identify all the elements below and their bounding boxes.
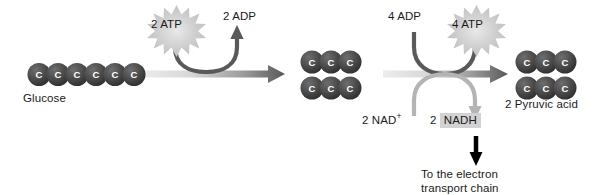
carbon-atom-label: C bbox=[74, 69, 81, 80]
carbon-atom-label: C bbox=[347, 57, 354, 68]
glucose-label: Glucose bbox=[23, 92, 66, 105]
nad-charge-superscript: + bbox=[396, 111, 401, 121]
atp-burst-icon-left bbox=[147, 5, 206, 57]
carbon-atom-label: C bbox=[55, 69, 62, 80]
main-arrow-segment-1 bbox=[138, 65, 285, 83]
glucose-carbon-chain: C C C C C C bbox=[28, 63, 146, 86]
carbon-atom-label: C bbox=[309, 83, 316, 94]
nad-input-label: 2 NAD+ bbox=[362, 114, 401, 127]
glycolysis-diagram: C C C C C C C C C C C C bbox=[0, 0, 601, 195]
atp-output-label: 4 ATP bbox=[452, 18, 483, 31]
carbon-atom-label: C bbox=[309, 57, 316, 68]
carbon-atom-label: C bbox=[328, 83, 335, 94]
carbon-atom-label: C bbox=[328, 57, 335, 68]
electron-transport-caption-line1: To the electron bbox=[421, 167, 499, 181]
carbon-atom-label: C bbox=[562, 83, 569, 94]
carbon-atom-label: C bbox=[543, 57, 550, 68]
atp-input-label: 2 ATP bbox=[151, 18, 182, 31]
electron-transport-caption-line2: transport chain bbox=[421, 181, 499, 195]
carbon-atom-label: C bbox=[524, 57, 531, 68]
carbon-atom-label: C bbox=[543, 83, 550, 94]
adp-input-label: 4 ADP bbox=[388, 10, 421, 23]
electron-transport-caption: To the electron transport chain bbox=[421, 167, 499, 195]
carbon-atom-label: C bbox=[36, 69, 43, 80]
pyruvic-acid-label: 2 Pyruvic acid bbox=[505, 98, 578, 111]
carbon-atom-label: C bbox=[347, 83, 354, 94]
carbon-atom-label: C bbox=[131, 69, 138, 80]
adp-output-label: 2 ADP bbox=[223, 10, 256, 23]
nadh-output-species: NADH bbox=[440, 113, 481, 128]
nad-input-count: 2 bbox=[362, 114, 369, 126]
nadh-output-label: 2 NADH bbox=[430, 114, 481, 127]
pyruvic-acid-molecules: C C C C C C bbox=[516, 51, 577, 100]
nad-input-species: NAD bbox=[372, 114, 397, 126]
atp-burst-icon-right bbox=[447, 5, 506, 57]
carbon-atom-label: C bbox=[524, 83, 531, 94]
carbon-atom-label: C bbox=[112, 69, 119, 80]
carbon-atom-label: C bbox=[93, 69, 100, 80]
nadh-output-count: 2 bbox=[430, 114, 437, 126]
carbon-atom-label: C bbox=[562, 57, 569, 68]
intermediate-3-carbon-molecules: C C C C C C bbox=[301, 51, 362, 100]
electron-transport-arrow bbox=[470, 136, 483, 166]
